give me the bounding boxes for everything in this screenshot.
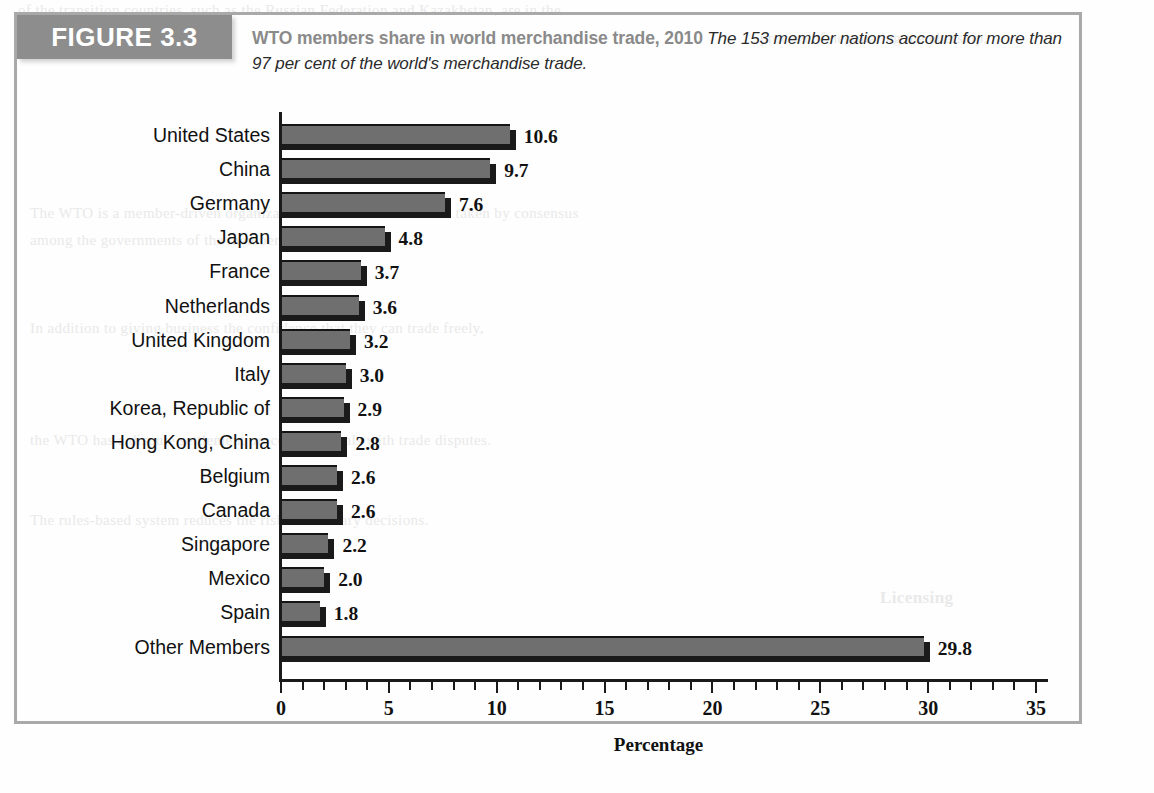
figure-number-label: FIGURE 3.3 <box>51 22 198 53</box>
x-axis-title: Percentage <box>614 735 703 754</box>
figure-number-badge: FIGURE 3.3 <box>17 15 232 59</box>
figure-page: of the transition countries, such as the… <box>0 0 1154 793</box>
figure-title: WTO members share in world merchandise t… <box>252 28 703 48</box>
figure-border <box>14 12 1082 724</box>
figure-caption: WTO members share in world merchandise t… <box>252 26 1062 76</box>
